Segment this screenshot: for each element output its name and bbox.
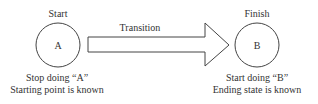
transition-group: Transition (88, 22, 229, 66)
start-caption-line2: Starting point is known (10, 84, 104, 95)
transition-diagram: Start A Stop doing “A” Starting point is… (0, 0, 318, 104)
finish-group: Finish B Start doing “B” Ending state is… (213, 8, 302, 95)
start-node-label: A (54, 40, 62, 51)
transition-label: Transition (120, 22, 161, 33)
finish-caption-line2: Ending state is known (213, 84, 302, 95)
start-title: Start (49, 8, 68, 19)
finish-title: Finish (244, 8, 269, 19)
finish-node-label: B (254, 40, 261, 51)
finish-caption-line1: Start doing “B” (226, 72, 288, 83)
start-caption-line1: Stop doing “A” (26, 72, 88, 83)
